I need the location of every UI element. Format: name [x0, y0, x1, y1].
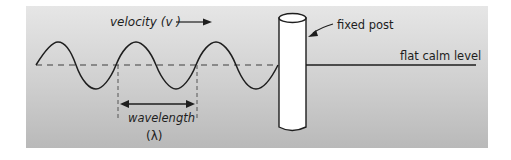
lambda-label: (λ): [146, 129, 162, 143]
wavelength-label: wavelength: [128, 111, 195, 125]
velocity-label: velocity (v ): [110, 15, 181, 29]
flat-calm-level-label: flat calm level: [400, 49, 481, 63]
velocity-arrow-icon: [176, 19, 212, 26]
wave-diagram: velocity (v ) fixed post flat calm level…: [0, 0, 511, 160]
wavelength-double-arrow-icon: [120, 100, 195, 108]
fixed-post-label: fixed post: [337, 18, 394, 32]
fixed-post-pointer-icon: [308, 24, 333, 37]
fixed-post: [279, 14, 306, 131]
